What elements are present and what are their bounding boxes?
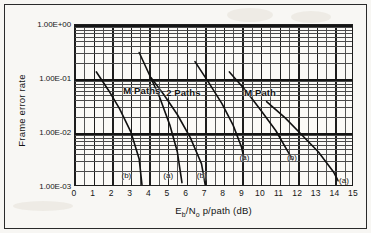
curve-label: (b) <box>197 171 207 180</box>
plot-area: M Paths2 PathsM Path(b)(a)(b)(a)(b)(a) <box>74 24 353 186</box>
y-tick-label: 1.00E+00 <box>37 20 71 29</box>
curve-label: (a) <box>240 153 250 162</box>
y-axis-tick-labels: 1.00E+00 1.00E-01 1.00E-02 1.00E-03 <box>0 0 71 233</box>
x-axis-title-tail: p/path (dB) <box>200 205 252 216</box>
x-tick-label: 6 <box>183 188 188 198</box>
x-tick-label: 13 <box>311 188 321 198</box>
x-tick-label: 1 <box>90 188 95 198</box>
x-tick-label: 4 <box>146 188 151 198</box>
curve-a <box>195 62 244 159</box>
group-label: M Paths <box>123 85 160 96</box>
figure-container: Frame error rate 1.00E+00 1.00E-01 1.00E… <box>0 0 371 233</box>
curve-label: (a) <box>339 176 349 185</box>
x-tick-label: 10 <box>255 188 265 198</box>
x-tick-label: 11 <box>274 188 283 198</box>
x-tick-label: 0 <box>72 188 77 198</box>
curve-label: (b) <box>122 171 132 180</box>
curve-a <box>267 102 339 181</box>
x-tick-label: 7 <box>202 188 207 198</box>
curve-label: (a) <box>163 171 173 180</box>
x-tick-label: 15 <box>348 188 358 198</box>
y-tick-label: 1.00E-03 <box>39 182 71 191</box>
x-tick-label: 3 <box>127 188 132 198</box>
scan-artifact <box>227 8 273 22</box>
curve-layer <box>75 25 353 186</box>
x-tick-label: 12 <box>292 188 302 198</box>
y-tick-label: 1.00E-01 <box>39 74 71 83</box>
x-tick-label: 14 <box>329 188 339 198</box>
group-label: M Path <box>244 87 276 98</box>
x-tick-label: 5 <box>165 188 170 198</box>
x-tick-label: 9 <box>239 188 244 198</box>
curve-a <box>139 52 182 182</box>
group-label: 2 Paths <box>166 87 201 98</box>
scan-artifact <box>291 11 331 23</box>
x-tick-label: 8 <box>220 188 225 198</box>
y-tick-label: 1.00E-02 <box>39 128 71 137</box>
x-tick-label: 2 <box>109 188 114 198</box>
curve-label: (b) <box>287 153 297 162</box>
x-axis-title: Eb/No p/path (dB) <box>74 205 353 218</box>
x-axis-title-mid: /N <box>186 205 196 216</box>
